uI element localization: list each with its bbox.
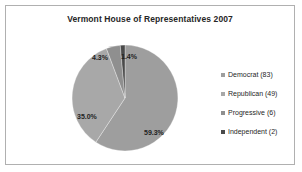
legend-swatch-progressive: [221, 111, 225, 115]
slice-label-independent: 1.4%: [121, 53, 137, 60]
slice-label-progressive: 4.3%: [92, 54, 108, 61]
legend-label-progressive: Progressive (6): [228, 109, 275, 116]
legend-item-republican: Republican (49): [221, 87, 302, 100]
legend-label-democrat: Democrat (83): [228, 71, 273, 78]
legend-swatch-republican: [221, 92, 225, 96]
legend-label-republican: Republican (49): [228, 90, 277, 97]
legend-label-independent: Independent (2): [228, 128, 277, 135]
chart-frame: Vermont House of Representatives 2007 59…: [5, 5, 295, 165]
legend-swatch-democrat: [221, 73, 225, 77]
chart-title: Vermont House of Representatives 2007: [6, 14, 294, 24]
legend-item-progressive: Progressive (6): [221, 106, 302, 119]
slice-label-democrat: 59.3%: [144, 129, 164, 136]
legend-item-independent: Independent (2): [221, 125, 302, 138]
chart-legend: Democrat (83) Republican (49) Progressiv…: [221, 68, 302, 144]
legend-item-democrat: Democrat (83): [221, 68, 302, 81]
legend-swatch-independent: [221, 130, 225, 134]
slice-label-republican: 35.0%: [77, 113, 97, 120]
pie-plot-area: 59.3% 35.0% 4.3% 1.4%: [16, 28, 206, 160]
